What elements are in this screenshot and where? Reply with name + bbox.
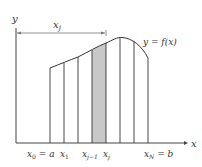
tick-label-xN-b: xN = b [144,149,174,160]
arrow-right-icon [101,32,105,35]
curve-label: y = f(x) [142,37,177,47]
x-axis-label: x [191,138,197,149]
arrow-left-icon [17,32,21,35]
tick-label-xj-minus-1: xj−1 [82,149,98,161]
y-axis-label: y [11,13,18,24]
tick-label-xj: xj [103,149,110,161]
tick-label-x0-a: x0 = a [27,149,55,160]
shaded-subinterval [92,43,106,143]
xj-width-label: xj [53,19,62,32]
riemann-sum-diagram: y x xj y = f(x) x0 = a x1 xj−1 xj xN = b [0,0,202,167]
tick-label-x1: x1 [60,149,69,160]
x-axis-arrow-icon [184,141,188,145]
